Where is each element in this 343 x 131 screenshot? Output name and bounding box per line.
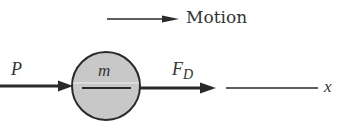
mass-label: m [98,62,110,79]
force-fd-symbol: F [172,59,183,79]
motion-label: Motion [186,9,247,26]
force-p-label: P [11,60,22,78]
force-fd-subscript: D [183,67,193,82]
force-fd-arrow-icon [140,83,216,94]
motion-arrow-icon [107,16,179,23]
force-p-arrow-icon [0,81,73,92]
force-fd-label: FD [172,60,193,82]
x-axis-label: x [324,78,332,95]
